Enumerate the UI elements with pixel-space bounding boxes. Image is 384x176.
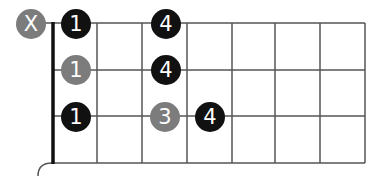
finger-dot: 4 xyxy=(195,102,225,132)
fretboard-diagram: X 1 4 1 4 1 3 4 xyxy=(0,0,384,176)
finger-dot: 1 xyxy=(61,55,91,85)
fretboard-grid xyxy=(0,0,384,176)
finger-dot: 1 xyxy=(61,102,91,132)
muted-string-marker: X xyxy=(16,9,46,39)
finger-dot: 4 xyxy=(151,55,181,85)
finger-dot: 1 xyxy=(61,9,91,39)
finger-dot: 3 xyxy=(150,102,180,132)
finger-dot: 4 xyxy=(151,9,181,39)
